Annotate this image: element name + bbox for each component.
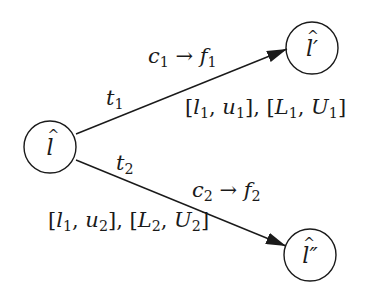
edge-t2-transition-label: t2	[116, 153, 134, 177]
node-l-prime-label: l′	[286, 38, 338, 60]
node-l-label: l	[24, 137, 76, 159]
node-l-double-prime-label: l″	[284, 245, 336, 267]
edge-t1-action-label: c1 → f1	[148, 46, 217, 70]
edge-t2-intervals-label: [l1, u2], [L2, U2]	[48, 210, 209, 234]
edge-t2-action-label: c2 → f2	[192, 180, 261, 204]
edge-t1-transition-label: t1	[106, 88, 124, 112]
edge-t1-intervals-label: [l1, u1], [L1, U1]	[185, 97, 346, 121]
